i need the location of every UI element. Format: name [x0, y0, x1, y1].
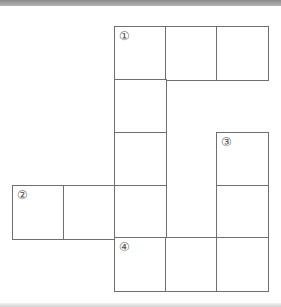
grid-cell[interactable] [216, 237, 269, 292]
grid-cell[interactable] [63, 185, 116, 240]
grid-cell-clue-2[interactable]: ② [12, 185, 65, 240]
top-edge-bar [0, 0, 281, 6]
clue-number-1: ① [119, 30, 130, 42]
grid-cell[interactable] [165, 237, 218, 292]
grid-cell[interactable] [114, 185, 167, 240]
clue-number-3: ③ [221, 136, 232, 148]
grid-cell[interactable] [114, 132, 167, 187]
grid-cell-clue-1[interactable]: ① [114, 26, 167, 81]
grid-cell-clue-3[interactable]: ③ [216, 132, 269, 187]
clue-number-4: ④ [119, 241, 130, 253]
clue-number-2: ② [17, 189, 28, 201]
grid-cell[interactable] [165, 26, 218, 81]
bottom-edge-bar [0, 303, 281, 307]
grid-cell-clue-4[interactable]: ④ [114, 237, 167, 292]
grid-cell[interactable] [216, 185, 269, 240]
grid-cell[interactable] [216, 26, 269, 81]
grid-cell[interactable] [114, 79, 167, 134]
